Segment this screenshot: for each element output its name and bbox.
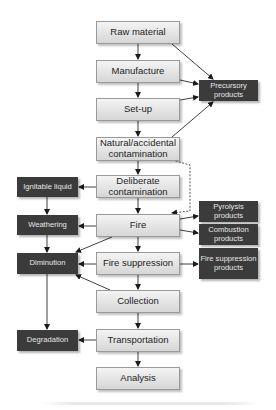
edge-collection-to-diminution xyxy=(76,275,110,290)
edge-fire-to-diminution xyxy=(76,237,112,252)
node-precursory-products: Precursory products xyxy=(199,80,258,101)
node-fire: Fire xyxy=(96,214,180,237)
node-diminution: Diminution xyxy=(17,253,78,274)
node-pyrolysis-products: Pyrolysis products xyxy=(199,201,258,222)
node-transportation: Transportation xyxy=(96,329,180,352)
fire-debris-flowchart: Raw material Manufacture Set-up Natural/… xyxy=(0,0,276,410)
node-analysis: Analysis xyxy=(96,367,180,390)
node-collection: Collection xyxy=(96,290,180,313)
node-fire-suppression: Fire suppression xyxy=(96,252,180,275)
node-manufacture: Manufacture xyxy=(96,60,180,83)
edge-fire-to-pyrolysis-products xyxy=(180,216,198,219)
node-deliberate-contamination: Deliberate contamination xyxy=(96,175,180,198)
node-weathering: Weathering xyxy=(17,215,78,235)
figure-caption-cropped xyxy=(40,402,260,405)
node-natural-accidental-contamination: Natural/accidental contamination xyxy=(96,137,180,161)
node-combustion-products: Combustion products xyxy=(199,224,258,245)
edge-manufacture-to-precursory-products xyxy=(180,80,198,84)
edge-set-up-to-precursory-products xyxy=(180,97,198,100)
node-ignitable-liquid: Ignitable liquid xyxy=(17,177,78,197)
edge-fire-to-combustion-products xyxy=(180,230,198,233)
node-set-up: Set-up xyxy=(96,98,180,121)
node-fire-suppression-products: Fire suppression products xyxy=(199,248,258,279)
node-degradation: Degradation xyxy=(17,330,78,351)
node-raw-material: Raw material xyxy=(96,21,180,44)
